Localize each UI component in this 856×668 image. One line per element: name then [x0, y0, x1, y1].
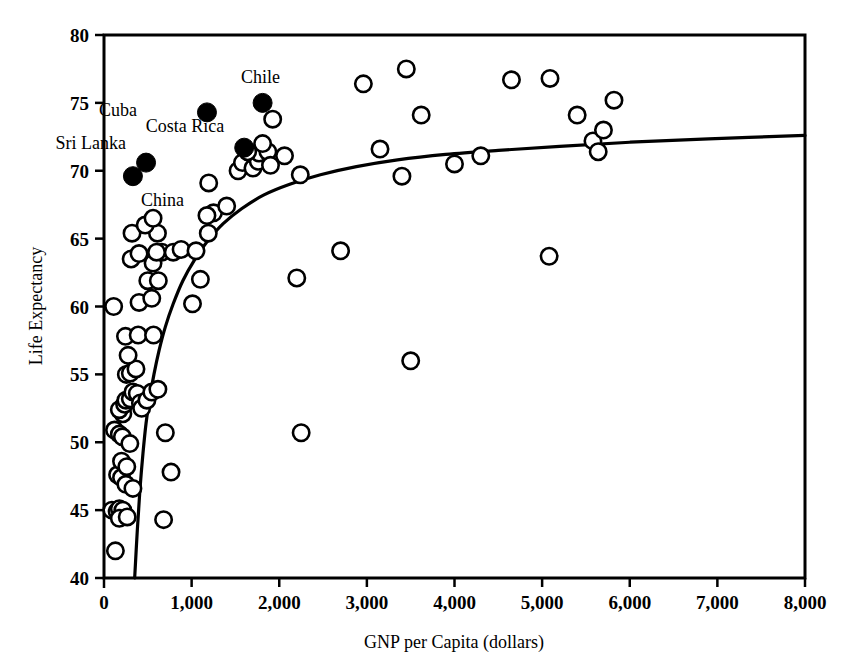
x-tick-label: 1,000 — [170, 592, 213, 613]
y-tick-labels: 404550556065707580 — [70, 25, 89, 589]
y-tick-label: 50 — [70, 432, 89, 453]
highlighted-data-point — [137, 153, 156, 172]
data-point — [293, 425, 309, 441]
y-tick-label: 55 — [70, 364, 89, 385]
data-point — [254, 135, 270, 151]
data-point — [542, 70, 558, 86]
x-tick-labels: 01,0002,0003,0004,0005,0006,0007,0008,00… — [99, 592, 826, 613]
data-point — [122, 435, 138, 451]
data-point — [157, 425, 173, 441]
y-tick-label: 60 — [70, 297, 89, 318]
data-point — [199, 207, 215, 223]
data-point — [590, 144, 606, 160]
data-point — [276, 148, 292, 164]
data-point — [446, 156, 462, 172]
figure-container: 01,0002,0003,0004,0005,0006,0007,0008,00… — [0, 0, 856, 668]
data-point — [150, 381, 166, 397]
data-point — [188, 243, 204, 259]
x-tick-label: 8,000 — [784, 592, 827, 613]
x-tick-label: 7,000 — [696, 592, 739, 613]
y-tick-label: 75 — [70, 93, 89, 114]
data-point — [398, 61, 414, 77]
country-label: Sri Lanka — [56, 133, 126, 153]
data-point — [201, 175, 217, 191]
data-point — [150, 273, 166, 289]
data-point — [105, 298, 121, 314]
data-point — [119, 509, 135, 525]
data-point — [163, 464, 179, 480]
data-point — [569, 107, 585, 123]
data-point — [394, 168, 410, 184]
data-point — [413, 107, 429, 123]
data-point — [144, 290, 160, 306]
x-tick-label: 0 — [99, 592, 109, 613]
data-point — [289, 270, 305, 286]
data-point — [264, 111, 280, 127]
country-label: China — [141, 190, 184, 210]
data-point — [402, 353, 418, 369]
data-point — [200, 225, 216, 241]
data-point — [473, 148, 489, 164]
data-point — [541, 248, 557, 264]
data-point — [372, 141, 388, 157]
highlighted-data-point — [235, 138, 254, 157]
x-tick-label: 4,000 — [433, 592, 476, 613]
data-point — [503, 72, 519, 88]
highlighted-data-point — [253, 93, 272, 112]
data-point — [192, 271, 208, 287]
data-point — [130, 327, 146, 343]
country-label: Chile — [241, 67, 280, 87]
x-tick-label: 2,000 — [258, 592, 301, 613]
y-tick-label: 45 — [70, 500, 89, 521]
data-point — [148, 244, 164, 260]
x-tick-label: 6,000 — [608, 592, 651, 613]
data-point — [125, 480, 141, 496]
y-tick-label: 65 — [70, 229, 89, 250]
x-axis-title: GNP per Capita (dollars) — [364, 632, 544, 653]
y-tick-label: 70 — [70, 161, 89, 182]
x-tick-label: 5,000 — [521, 592, 564, 613]
x-tick-label: 3,000 — [346, 592, 389, 613]
data-point — [355, 76, 371, 92]
y-tick-label: 80 — [70, 25, 89, 46]
y-tick-label: 40 — [70, 568, 89, 589]
data-point — [120, 347, 136, 363]
data-point — [292, 167, 308, 183]
country-label: Cuba — [99, 100, 137, 120]
data-point — [218, 198, 234, 214]
data-point — [145, 327, 161, 343]
scatter-plot: 01,0002,0003,0004,0005,0006,0007,0008,00… — [0, 0, 856, 668]
country-label: Costa Rica — [146, 116, 225, 136]
y-axis-title: Life Expectancy — [26, 247, 46, 365]
data-point — [145, 210, 161, 226]
data-point — [606, 92, 622, 108]
data-point — [155, 511, 171, 527]
data-point — [332, 243, 348, 259]
data-point — [131, 245, 147, 261]
data-point — [119, 458, 135, 474]
data-point — [107, 543, 123, 559]
data-point — [595, 122, 611, 138]
data-point — [184, 296, 200, 312]
